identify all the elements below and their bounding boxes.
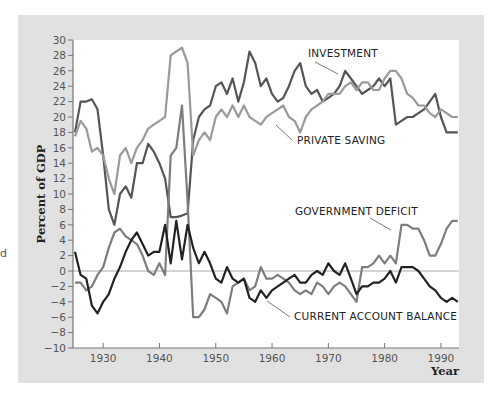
y-tick-label: 30 [53, 34, 66, 46]
y-tick-label: 22 [53, 95, 66, 107]
y-tick-label: 28 [53, 49, 66, 61]
y-tick-label: 2 [59, 249, 66, 261]
y-tick-label: 14 [53, 157, 67, 169]
x-tick-label: 1990 [428, 352, 455, 364]
private-saving-label: PRIVATE SAVING [297, 134, 385, 146]
y-tick-label: 18 [53, 126, 66, 138]
y-tick-label: −6 [51, 311, 67, 323]
government-deficit-label: GOVERNMENT DEFICIT [295, 205, 418, 217]
current-account-label: CURRENT ACCOUNT BALANCE [294, 310, 457, 322]
y-tick-label: 8 [59, 203, 66, 215]
y-tick-label: 4 [59, 234, 66, 246]
y-tick-label: −4 [51, 296, 67, 308]
x-tick-label: 1950 [202, 352, 229, 364]
y-tick-label: −10 [44, 342, 66, 354]
y-tick-label: 12 [53, 172, 66, 184]
x-tick-label: 1960 [259, 352, 286, 364]
x-tick-label: 1980 [371, 352, 398, 364]
y-tick-label: 6 [59, 219, 66, 231]
y-axis-title: Percent of GDP [34, 144, 48, 243]
x-axis-title: Year [430, 364, 460, 378]
y-tick-label: 10 [53, 188, 66, 200]
investment-label: INVESTMENT [308, 47, 378, 59]
y-tick-label: 0 [59, 265, 66, 277]
x-tick-label: 1940 [146, 352, 173, 364]
y-tick-label: 26 [53, 65, 67, 77]
y-tick-label: 20 [53, 111, 66, 123]
y-tick-label: 24 [53, 80, 67, 92]
y-tick-label: 16 [53, 142, 67, 154]
y-tick-label: −2 [51, 280, 66, 292]
y-axis-ticks: −10−8−6−4−2024681012141618202224262830 [44, 34, 73, 354]
line-chart: −10−8−6−4−2024681012141618202224262830 1… [0, 0, 499, 403]
y-tick-label: −8 [51, 326, 66, 338]
x-tick-label: 1970 [315, 352, 342, 364]
x-tick-label: 1930 [90, 352, 117, 364]
